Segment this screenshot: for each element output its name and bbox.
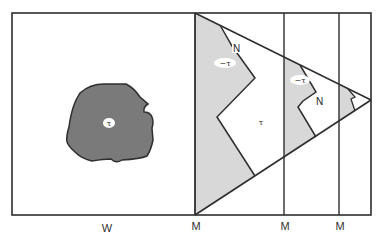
outer-frame: [12, 13, 371, 215]
m1-label: M: [191, 220, 200, 232]
diagram: τ −τ N τ −τ N W M M M: [0, 0, 382, 241]
w-label: W: [102, 222, 113, 234]
m3-label: M: [335, 220, 344, 232]
region1-boundary-label: N: [233, 43, 240, 54]
region2-boundary-label: N: [316, 96, 323, 107]
region2-shaded-label: −τ: [294, 76, 306, 85]
blob-label: τ: [107, 119, 112, 128]
region1-shaded-label: −τ: [219, 59, 231, 68]
region1-inner-label: τ: [259, 118, 264, 127]
m2-label: M: [280, 220, 289, 232]
